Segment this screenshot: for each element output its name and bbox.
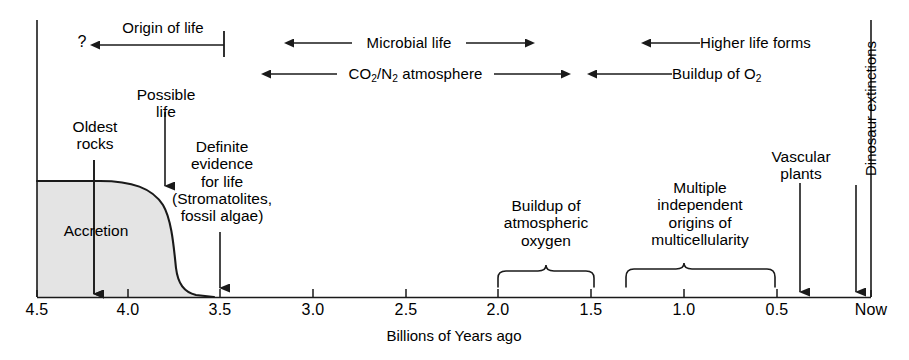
axis-tick-label: 4.5 xyxy=(7,301,67,319)
event-label-possible-life: Possible life xyxy=(121,86,211,121)
event-label-multicellularity: Multiple independent origins of multicel… xyxy=(630,179,770,248)
axis-title: Billions of Years ago xyxy=(344,327,564,344)
axis-tick-label: 4.0 xyxy=(98,301,158,319)
axis-tick-label: 3.0 xyxy=(283,301,343,319)
band-label-buildup-of-o2: Buildup of O2 xyxy=(672,65,812,84)
axis-tick-label: 3.5 xyxy=(190,301,250,319)
axis-tick-label: 1.5 xyxy=(561,301,621,319)
atmosphere-suffix: atmosphere xyxy=(398,65,482,82)
axis-tick-label: 1.0 xyxy=(654,301,714,319)
axis-tick-label: 2.5 xyxy=(376,301,436,319)
band-label-higher-life-forms: Higher life forms xyxy=(700,34,860,51)
band-label-microbial-life: Microbial life xyxy=(352,34,466,51)
brace-multicellularity xyxy=(626,263,775,287)
band-label-co2-n2-atmosphere: CO2/N2 atmosphere xyxy=(337,65,494,84)
uncertainty-marker: ? xyxy=(74,33,90,51)
co2-prefix: CO xyxy=(349,65,372,82)
event-label-vascular-plants: Vascular plants xyxy=(756,148,846,183)
band-label-origin-of-life: Origin of life xyxy=(104,19,222,36)
event-label-dinosaur-extinctions: Dinosaur extinctions xyxy=(862,41,879,176)
timeline-figure: ? Origin of life Microbial life Higher l… xyxy=(0,0,909,360)
axis-tick-label: 2.0 xyxy=(468,301,528,319)
event-label-accretion: Accretion xyxy=(48,222,144,239)
axis-tick-label: 0.5 xyxy=(747,301,807,319)
event-label-oldest-rocks: Oldest rocks xyxy=(49,118,141,153)
brace-buildup-atmospheric-oxygen xyxy=(498,265,594,287)
axis-tick-label: Now xyxy=(841,301,901,319)
o2-subscript: 2 xyxy=(756,73,762,84)
buildup-o2-prefix: Buildup of O xyxy=(672,65,756,82)
n2-prefix: /N xyxy=(377,65,392,82)
event-label-definite-evidence: Definite evidence for life (Stromatolite… xyxy=(166,138,278,225)
event-label-buildup-atmospheric-oxygen: Buildup of atmospheric oxygen xyxy=(487,197,605,249)
